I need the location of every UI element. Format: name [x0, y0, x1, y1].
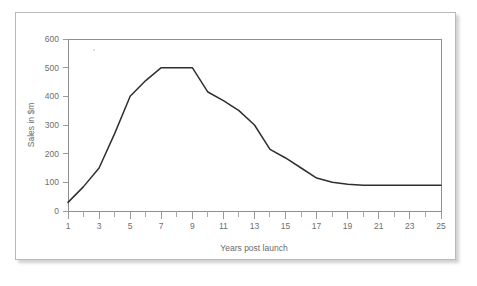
- x-tick-label-3: 3: [97, 221, 102, 231]
- page-canvas: 600 500 400 300 200 100 0 Sales in $m: [0, 0, 477, 286]
- y-tick-label-200: 200: [45, 149, 59, 159]
- chart-svg: 600 500 400 300 200 100 0 Sales in $m: [16, 13, 457, 261]
- x-tick-label-7: 7: [159, 221, 164, 231]
- x-tick-label-1: 1: [66, 221, 71, 231]
- x-tick-label-21: 21: [374, 221, 384, 231]
- x-tick-label-9: 9: [190, 221, 195, 231]
- x-axis-title: Years post launch: [220, 243, 288, 253]
- x-tick-label-17: 17: [312, 221, 322, 231]
- figure-frame: 600 500 400 300 200 100 0 Sales in $m: [15, 12, 456, 260]
- x-tick-label-15: 15: [281, 221, 291, 231]
- line-chart: 600 500 400 300 200 100 0 Sales in $m: [16, 13, 457, 261]
- y-tick-label-300: 300: [45, 120, 59, 130]
- x-tick-label-13: 13: [250, 221, 260, 231]
- x-tick-label-25: 25: [436, 221, 446, 231]
- x-tick-label-11: 11: [219, 221, 228, 231]
- sales-line-series: [68, 68, 441, 203]
- y-tick-label-100: 100: [45, 177, 59, 187]
- y-tick-label-400: 400: [45, 91, 59, 101]
- x-tick-label-23: 23: [405, 221, 415, 231]
- x-tick-label-5: 5: [128, 221, 133, 231]
- x-axis-ticks: 1 3 5 7 9 11 13 15 17 19 21 23 25: [66, 211, 446, 231]
- y-tick-label-600: 600: [45, 34, 59, 44]
- y-axis-title: Sales in $m: [26, 103, 36, 147]
- y-axis-ticks: 600 500 400 300 200 100 0: [45, 34, 68, 216]
- y-tick-label-500: 500: [45, 63, 59, 73]
- x-tick-label-19: 19: [343, 221, 353, 231]
- y-tick-label-0: 0: [54, 206, 59, 216]
- scan-speck: [93, 49, 95, 51]
